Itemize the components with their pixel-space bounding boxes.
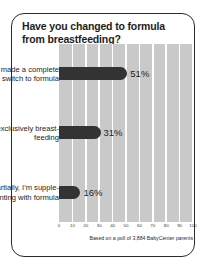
bar-value-label: 31%	[104, 126, 123, 139]
x-tick-label: 0	[58, 223, 60, 228]
x-tick-label: 60	[137, 223, 142, 228]
page-title: Have you changed to formula from breastf…	[22, 20, 188, 45]
bar	[59, 67, 127, 80]
x-tick-label: 90	[177, 223, 182, 228]
x-tick-label: 10	[70, 223, 75, 228]
bar	[59, 186, 80, 199]
category-label: No, I'm exclusively breast-feeding	[0, 124, 59, 142]
bar	[59, 126, 101, 139]
x-tick-label: 20	[83, 223, 88, 228]
poll-card: Have you changed to formula from breastf…	[11, 13, 195, 257]
category-label: Partially, I'm supple-menting with formu…	[0, 183, 59, 201]
chart-row: Partially, I'm supple-menting with formu…	[12, 163, 196, 222]
x-tick-label: 30	[97, 223, 102, 228]
bar-chart: Yes, I've made a complete switch to form…	[12, 44, 196, 256]
x-tick-label: 100	[189, 223, 196, 228]
x-axis: 0102030405060708090100	[59, 223, 193, 233]
x-tick-label: 50	[124, 223, 129, 228]
chart-row: Yes, I've made a complete switch to form…	[12, 44, 196, 103]
category-label: Yes, I've made a complete switch to form…	[0, 65, 59, 83]
x-tick-label: 80	[164, 223, 169, 228]
chart-row: No, I'm exclusively breast-feeding31%	[12, 103, 196, 162]
x-tick-label: 40	[110, 223, 115, 228]
bar-value-label: 51%	[130, 67, 149, 80]
x-tick-label: 70	[150, 223, 155, 228]
bar-value-label: 16%	[83, 186, 102, 199]
chart-footnote: Based on a poll of 3,884 BabyCenter pare…	[12, 235, 193, 241]
